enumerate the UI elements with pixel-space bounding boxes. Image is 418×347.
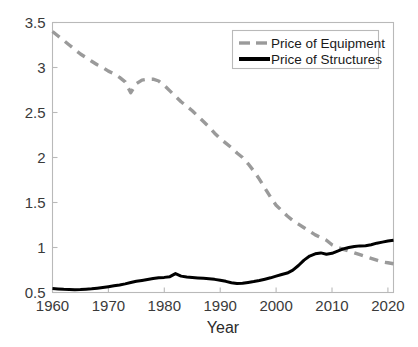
y-tick-label: 2.5 [25,104,46,121]
y-axis-tick-labels: 0.511.522.533.5 [25,14,46,301]
x-tick-label: 2000 [259,297,292,314]
chart-legend: Price of Equipment Price of Structures [233,31,386,69]
y-tick-label: 1 [37,239,45,256]
y-tick-label: 1.5 [25,194,46,211]
y-tick-label: 3 [37,59,45,76]
x-tick-label: 2020 [371,297,404,314]
y-tick-label: 2 [37,149,45,166]
y-axis-ticks [53,23,58,293]
x-tick-label: 2010 [315,297,348,314]
line-chart: 1960197019801990200020102020 0.511.522.5… [0,0,418,347]
chart-container: 1960197019801990200020102020 0.511.522.5… [0,0,418,347]
x-axis-title: Year [207,319,240,336]
x-tick-label: 1990 [204,297,237,314]
x-tick-label: 1980 [148,297,181,314]
x-tick-label: 1970 [92,297,125,314]
y-tick-label: 3.5 [25,14,46,31]
y-tick-label: 0.5 [25,284,46,301]
legend-label-structures: Price of Structures [271,52,382,67]
legend-label-equipment: Price of Equipment [271,36,385,51]
x-axis-tick-labels: 1960197019801990200020102020 [36,297,405,314]
series-group [53,32,394,290]
series-price-of-structures [53,240,394,289]
